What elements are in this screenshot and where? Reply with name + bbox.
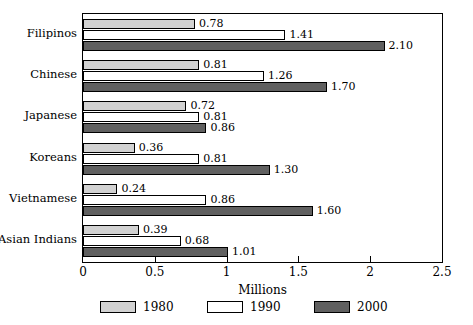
bar-value-label: 1.70 bbox=[331, 82, 356, 92]
bar-vietnamese-1990 bbox=[83, 195, 206, 205]
bar-value-label: 0.24 bbox=[121, 184, 146, 194]
bar-chart-figure: FilipinosChineseJapaneseKoreansVietnames… bbox=[0, 0, 473, 325]
legend-label: 2000 bbox=[357, 301, 388, 313]
x-axis-tick-label: 2.5 bbox=[432, 266, 451, 278]
bar-asian-indians-1980 bbox=[83, 225, 139, 235]
bar-japanese-2000 bbox=[83, 123, 206, 133]
x-axis-tick-label: 1.5 bbox=[289, 266, 308, 278]
plot-canvas: 0.781.412.100.811.261.700.720.810.860.36… bbox=[83, 14, 442, 262]
bar-value-label: 1.30 bbox=[274, 165, 299, 175]
legend-item-1980[interactable]: 1980 bbox=[100, 299, 174, 315]
category-label: Vietnamese bbox=[9, 193, 77, 205]
category-label: Chinese bbox=[30, 69, 77, 81]
bar-value-label: 1.26 bbox=[268, 71, 293, 81]
bar-value-label: 0.68 bbox=[185, 236, 210, 246]
x-axis-title: Millions bbox=[82, 284, 443, 296]
bar-value-label: 1.01 bbox=[232, 247, 257, 257]
bar-value-label: 0.39 bbox=[143, 225, 168, 235]
bar-chinese-1980 bbox=[83, 60, 199, 70]
x-axis-tick bbox=[298, 256, 299, 262]
bar-vietnamese-1980 bbox=[83, 184, 117, 194]
chart-legend: 198019902000 bbox=[82, 299, 443, 317]
bar-value-label: 0.86 bbox=[210, 123, 235, 133]
category-label: Koreans bbox=[29, 152, 77, 164]
x-axis-tick-label: 0 bbox=[79, 266, 87, 278]
bar-japanese-1990 bbox=[83, 112, 199, 122]
legend-item-1990[interactable]: 1990 bbox=[207, 299, 281, 315]
bar-chinese-1990 bbox=[83, 71, 264, 81]
category-label: Filipinos bbox=[27, 28, 77, 40]
bar-value-label: 0.81 bbox=[203, 154, 228, 164]
x-axis-tick bbox=[155, 256, 156, 262]
legend-item-2000[interactable]: 2000 bbox=[314, 299, 388, 315]
bar-koreans-1980 bbox=[83, 143, 135, 153]
legend-swatch-icon bbox=[314, 301, 350, 313]
legend-label: 1980 bbox=[143, 301, 174, 313]
bar-value-label: 1.60 bbox=[317, 206, 342, 216]
bar-koreans-2000 bbox=[83, 165, 270, 175]
bar-value-label: 0.86 bbox=[210, 195, 235, 205]
x-axis-tick-label: 1 bbox=[223, 266, 231, 278]
bar-value-label: 0.78 bbox=[199, 19, 224, 29]
x-axis-tick-label: 2 bbox=[366, 266, 374, 278]
legend-label: 1990 bbox=[250, 301, 281, 313]
bar-chinese-2000 bbox=[83, 82, 327, 92]
bar-vietnamese-2000 bbox=[83, 206, 313, 216]
x-axis-tick bbox=[227, 256, 228, 262]
bar-koreans-1990 bbox=[83, 154, 199, 164]
bar-value-label: 0.81 bbox=[203, 60, 228, 70]
bar-value-label: 1.41 bbox=[289, 30, 314, 40]
legend-swatch-icon bbox=[100, 301, 136, 313]
bar-value-label: 0.36 bbox=[139, 143, 164, 153]
category-axis-labels: FilipinosChineseJapaneseKoreansVietnames… bbox=[0, 13, 77, 263]
x-axis-tick bbox=[442, 256, 443, 262]
x-axis-tick bbox=[370, 256, 371, 262]
bar-filipinos-1980 bbox=[83, 19, 195, 29]
category-label: Japanese bbox=[24, 111, 77, 123]
bar-filipinos-2000 bbox=[83, 41, 385, 51]
bar-filipinos-1990 bbox=[83, 30, 285, 40]
bar-value-label: 2.10 bbox=[389, 41, 414, 51]
x-axis-tick-label: 0.5 bbox=[145, 266, 164, 278]
bar-japanese-1980 bbox=[83, 101, 186, 111]
plot-area: 0.781.412.100.811.261.700.720.810.860.36… bbox=[82, 13, 443, 263]
bar-asian-indians-1990 bbox=[83, 236, 181, 246]
legend-swatch-icon bbox=[207, 301, 243, 313]
category-label: Asian Indians bbox=[0, 235, 77, 247]
